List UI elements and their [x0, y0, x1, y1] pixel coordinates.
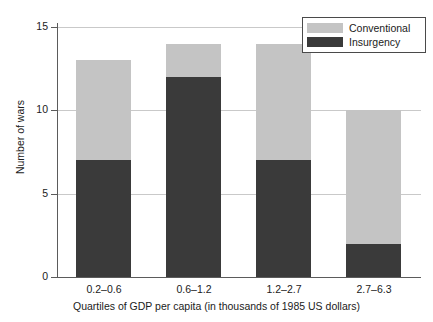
x-tick-label-3: 2.7–6.3 [329, 283, 419, 295]
legend-swatch-insurgency [307, 37, 343, 47]
legend-item-conventional: Conventional [307, 21, 421, 35]
legend-item-insurgency: Insurgency [307, 35, 421, 49]
bar-segment-conventional [166, 44, 221, 77]
bar-segment-insurgency [346, 244, 401, 277]
x-axis-line [53, 277, 421, 278]
bar-segment-conventional [256, 44, 311, 161]
y-tick-mark-10 [51, 110, 57, 111]
x-tick-label-0: 0.2–0.6 [59, 283, 149, 295]
stacked-bar-chart-figure: 15 10 5 0 Number of wars 0.2–0.6 0.6–1.2… [0, 0, 433, 322]
y-tick-mark-15 [51, 27, 57, 28]
bar-segment-insurgency [256, 160, 311, 277]
bar-segment-insurgency [166, 77, 221, 277]
legend-swatch-conventional [307, 23, 343, 33]
y-tick-mark-0 [51, 277, 57, 278]
y-axis-line [57, 23, 58, 278]
x-axis-title: Quartiles of GDP per capita (in thousand… [0, 300, 433, 312]
legend-label-conventional: Conventional [349, 23, 410, 34]
legend: Conventional Insurgency [302, 17, 426, 53]
legend-label-insurgency: Insurgency [349, 37, 400, 48]
y-tick-label-0: 0 [12, 271, 48, 282]
x-tick-label-2: 1.2–2.7 [239, 283, 329, 295]
y-tick-label-15: 15 [12, 21, 48, 32]
y-axis-title: Number of wars [14, 67, 26, 207]
bar-segment-insurgency [76, 160, 131, 277]
bar-segment-conventional [346, 110, 401, 243]
bar-segment-conventional [76, 60, 131, 160]
y-tick-mark-5 [51, 194, 57, 195]
plot-area [57, 27, 421, 277]
y-tick-labels: 15 10 5 0 [4, 0, 48, 322]
x-tick-label-1: 0.6–1.2 [149, 283, 239, 295]
